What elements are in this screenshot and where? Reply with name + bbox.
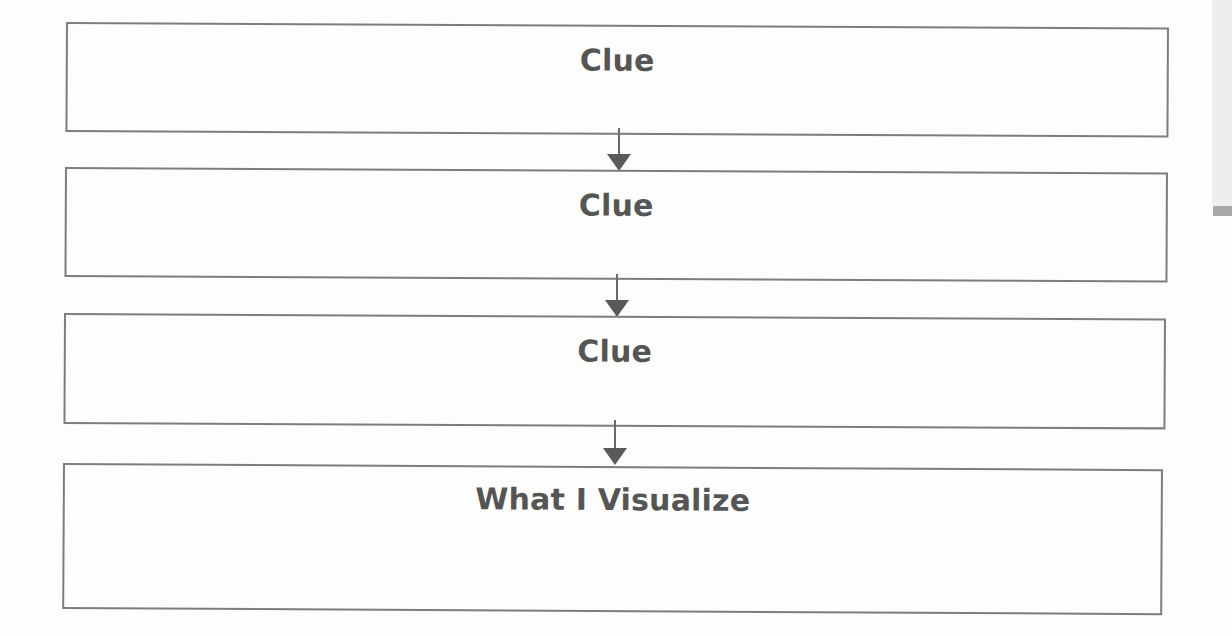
- page-edge-bar: [1213, 206, 1232, 216]
- visualize-box: What I Visualize: [62, 463, 1163, 615]
- page-edge-strip: [1212, 0, 1232, 206]
- arrow-head: [607, 154, 631, 171]
- arrow-head: [603, 448, 627, 465]
- clue-box-2-label: Clue: [67, 185, 1166, 225]
- clue-box-3: Clue: [63, 313, 1166, 429]
- clue-box-1-label: Clue: [68, 40, 1167, 80]
- clue-box-3-label: Clue: [66, 331, 1164, 371]
- arrow-down-icon: [607, 128, 631, 172]
- arrow-head: [605, 300, 629, 317]
- arrow-down-icon: [603, 420, 627, 466]
- clue-box-2: Clue: [64, 167, 1168, 282]
- clue-box-1: Clue: [65, 22, 1169, 137]
- arrow-down-icon: [605, 274, 629, 318]
- visualize-box-label: What I Visualize: [65, 479, 1161, 520]
